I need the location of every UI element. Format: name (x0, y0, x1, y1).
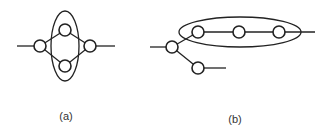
panel-b (150, 17, 315, 74)
node (84, 40, 96, 52)
node (34, 40, 46, 52)
node (233, 26, 245, 38)
node (192, 26, 204, 38)
panel-b-label: (b) (228, 113, 241, 125)
node (192, 62, 204, 74)
node (273, 26, 285, 38)
panel-a (17, 11, 115, 81)
node (166, 41, 178, 53)
node (59, 24, 71, 36)
diagram (0, 0, 331, 133)
panel-a-label: (a) (59, 110, 72, 122)
node (59, 60, 71, 72)
